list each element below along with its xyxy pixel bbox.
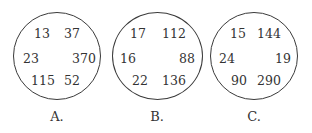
number-mid-right: 370 [72, 52, 96, 66]
number-mid-left: 23 [23, 52, 39, 66]
option-c[interactable]: 15 144 24 19 90 290 C. [208, 0, 308, 133]
option-label: C. [247, 109, 261, 124]
number-mid-right: 88 [179, 52, 195, 66]
number-mid-left: 16 [120, 52, 136, 66]
number-top-right: 144 [257, 27, 281, 41]
number-bottom-right: 136 [162, 74, 186, 88]
number-top-left: 13 [34, 27, 50, 41]
number-top-right: 112 [162, 27, 186, 41]
number-bottom-right: 290 [257, 74, 281, 88]
number-bottom-left: 22 [132, 74, 148, 88]
number-bottom-right: 52 [64, 74, 80, 88]
option-a[interactable]: 13 37 23 370 115 52 A. [0, 0, 100, 133]
number-mid-right: 19 [275, 52, 291, 66]
number-mid-left: 24 [219, 52, 235, 66]
number-bottom-left: 90 [231, 74, 247, 88]
number-top-left: 15 [230, 27, 246, 41]
number-bottom-left: 115 [31, 74, 55, 88]
option-b[interactable]: 17 112 16 88 22 136 B. [104, 0, 204, 133]
option-label: A. [50, 109, 64, 124]
option-label: B. [150, 109, 164, 124]
number-top-left: 17 [130, 27, 146, 41]
number-top-right: 37 [64, 27, 80, 41]
